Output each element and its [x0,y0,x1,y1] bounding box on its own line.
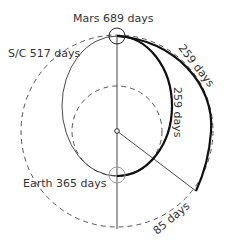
orbit-diagram: Mars 689 days S/C 517 days Earth 365 day… [0,0,227,246]
earth-label: Earth 365 days [23,177,107,190]
inner-arc-label: 259 days [171,87,184,138]
spacecraft-label: S/C 517 days [8,47,81,60]
radial-line [117,131,196,191]
outer-arc-label: 259 days [176,42,217,90]
inner-transfer-arc [117,36,172,176]
mars-label: Mars 689 days [73,12,154,25]
sun-icon [115,129,120,134]
